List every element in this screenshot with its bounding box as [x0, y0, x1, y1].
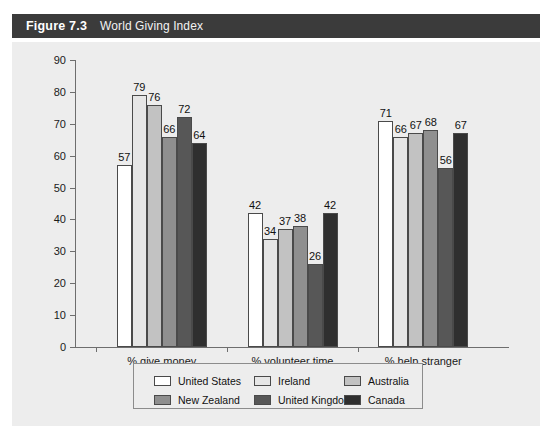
bar-value-label: 64	[193, 129, 205, 141]
y-axis-label: 70	[32, 118, 66, 130]
bar-value-label: 34	[264, 225, 276, 237]
bar-value-label: 56	[440, 154, 452, 166]
y-axis-tick	[70, 315, 75, 316]
chart-legend: United StatesIrelandAustralia New Zealan…	[133, 363, 423, 409]
bar: 64	[192, 143, 207, 347]
legend-swatch	[254, 395, 271, 405]
y-axis-label: 90	[32, 54, 66, 66]
bar: 68	[423, 130, 438, 347]
bar: 76	[147, 105, 162, 347]
y-axis-tick	[70, 219, 75, 220]
bar-value-label: 37	[279, 215, 291, 227]
bar: 66	[162, 137, 177, 347]
legend-item[interactable]: Australia	[344, 375, 409, 387]
y-axis-label: 40	[32, 213, 66, 225]
y-axis-label: 20	[32, 277, 66, 289]
bar-group: 577976667264	[117, 60, 207, 347]
bar-value-label: 26	[309, 250, 321, 262]
legend-row: New ZealandUnited KingdomCanada	[144, 390, 422, 409]
bar: 56	[438, 168, 453, 347]
bar: 42	[248, 213, 263, 347]
legend-swatch	[254, 376, 271, 386]
y-axis-tick	[70, 60, 75, 61]
legend-swatch	[344, 376, 361, 386]
legend-swatch	[344, 395, 361, 405]
bar-value-label: 57	[118, 151, 130, 163]
y-axis-label: 60	[32, 150, 66, 162]
y-axis-tick	[70, 92, 75, 93]
bar-value-label: 79	[133, 81, 145, 93]
bar-group: 716667685667	[378, 60, 468, 347]
bar: 79	[132, 95, 147, 347]
bar-value-label: 76	[148, 91, 160, 103]
legend-label: Australia	[368, 375, 409, 387]
x-axis-tick	[227, 347, 228, 352]
y-axis-label: 50	[32, 182, 66, 194]
bar: 67	[408, 133, 423, 347]
figure-container: Figure 7.3 World Giving Index 0102030405…	[0, 0, 559, 444]
legend-row: United StatesIrelandAustralia	[144, 371, 422, 390]
legend-item[interactable]: United States	[154, 375, 241, 387]
bar-value-label: 66	[395, 123, 407, 135]
y-axis-tick	[70, 283, 75, 284]
bar: 57	[117, 165, 132, 347]
figure-panel: 0102030405060708090 57797666726442343738…	[12, 42, 540, 426]
y-axis-tick	[70, 124, 75, 125]
bar: 38	[293, 226, 308, 347]
legend-swatch	[154, 376, 171, 386]
bar: 34	[263, 239, 278, 347]
legend-item[interactable]: Canada	[344, 394, 405, 406]
x-axis-line	[75, 347, 509, 348]
bar: 42	[323, 213, 338, 347]
y-axis-label: 80	[32, 86, 66, 98]
legend-label: Ireland	[278, 375, 310, 387]
bar-value-label: 72	[178, 103, 190, 115]
bar-value-label: 42	[324, 199, 336, 211]
bar: 66	[393, 137, 408, 347]
bar-value-label: 66	[163, 123, 175, 135]
y-axis-label: 30	[32, 245, 66, 257]
y-axis-tick	[70, 188, 75, 189]
legend-label: United Kingdom	[278, 394, 353, 406]
legend-label: New Zealand	[178, 394, 240, 406]
bar: 72	[177, 117, 192, 347]
bar: 37	[278, 229, 293, 347]
bar-value-label: 68	[425, 116, 437, 128]
x-axis-tick	[358, 347, 359, 352]
bar-group: 423437382642	[248, 60, 338, 347]
figure-header-bar: Figure 7.3 World Giving Index	[12, 14, 540, 38]
y-axis-tick	[70, 347, 75, 348]
bar-value-label: 38	[294, 212, 306, 224]
bar-series-container: 577976667264423437382642716667685667	[76, 60, 509, 347]
legend-label: United States	[178, 375, 241, 387]
y-axis-tick	[70, 251, 75, 252]
bar-value-label: 67	[410, 119, 422, 131]
bar: 67	[453, 133, 468, 347]
bar-value-label: 42	[249, 199, 261, 211]
bar-value-label: 67	[455, 119, 467, 131]
legend-item[interactable]: New Zealand	[154, 394, 240, 406]
bar: 26	[308, 264, 323, 347]
legend-item[interactable]: Ireland	[254, 375, 310, 387]
bar: 71	[378, 121, 393, 347]
y-axis-tick	[70, 156, 75, 157]
bar-value-label: 71	[380, 107, 392, 119]
x-axis-tick	[96, 347, 97, 352]
y-axis-label: 0	[32, 341, 66, 353]
legend-swatch	[154, 395, 171, 405]
figure-number: Figure 7.3	[26, 19, 87, 33]
figure-title: World Giving Index	[100, 19, 203, 33]
legend-item[interactable]: United Kingdom	[254, 394, 353, 406]
legend-label: Canada	[368, 394, 405, 406]
y-axis-label: 10	[32, 309, 66, 321]
